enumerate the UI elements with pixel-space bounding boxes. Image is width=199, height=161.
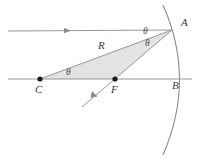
incoming-ray-arrow-icon: [64, 28, 71, 33]
ray-diagram-figure: A B C F R θ θ θ: [0, 0, 199, 161]
label-theta-incidence: θ: [143, 26, 148, 36]
label-point-c: C: [35, 83, 43, 95]
point-dot-f: [112, 76, 117, 81]
ray-diagram-canvas: A B C F R θ θ θ: [0, 0, 199, 161]
label-point-f: F: [110, 83, 118, 95]
label-theta-center: θ: [66, 67, 71, 77]
label-radius-r: R: [97, 39, 105, 51]
label-theta-reflection: θ: [145, 38, 150, 48]
label-point-a: A: [180, 16, 188, 28]
label-point-b: B: [172, 79, 179, 91]
point-dot-c: [37, 76, 42, 81]
